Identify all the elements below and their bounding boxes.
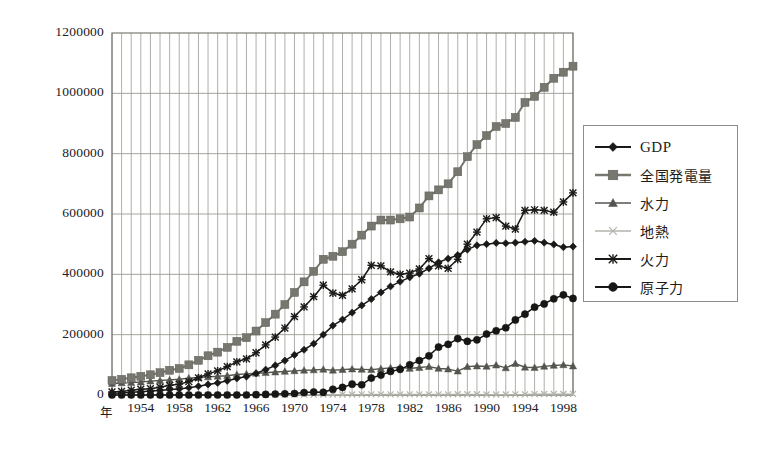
marker-square [531,92,539,100]
marker-square [300,278,308,286]
marker-star [540,206,548,214]
marker-circle [512,316,519,323]
marker-square [156,369,164,377]
marker-square [521,98,529,106]
marker-square [502,120,510,128]
marker-square [166,366,174,374]
marker-star [329,289,337,297]
marker-star [377,262,385,270]
marker-diamond [493,239,500,246]
marker-star [348,285,356,293]
x-axis-tick-label: 1998 [539,400,587,416]
marker-star [492,214,500,222]
legend-item-geothermal[interactable]: 地熱 [584,217,737,245]
marker-square [377,216,385,224]
marker-square [387,216,395,224]
marker-star [502,222,510,230]
marker-square [367,222,375,230]
y-axis-tick-label: 1200000 [20,24,104,40]
y-axis-tick-label: 200000 [20,326,104,342]
marker-square [454,168,462,176]
marker-circle [195,391,202,398]
marker-square [185,361,193,369]
legend-key-nuclear [593,280,633,294]
marker-circle [233,391,240,398]
marker-star [569,189,577,197]
y-axis-tick-label: 400000 [20,265,104,281]
marker-square [463,153,471,161]
marker-square [550,74,558,82]
marker-square [146,371,154,379]
legend-symbol-nuclear [593,280,633,294]
marker-circle [368,375,375,382]
marker-square [252,327,260,335]
marker-star [444,264,452,272]
legend-label-gdp: GDP [640,139,672,156]
legend-key-national-generation [593,168,633,182]
marker-square [118,375,126,383]
marker-square [108,377,116,385]
marker-square [290,288,298,296]
legend-label-nuclear: 原子力 [640,277,684,297]
marker-diamond [445,255,452,262]
legend-symbol-geothermal [593,224,633,238]
marker-diamond [550,241,557,248]
marker-square [348,240,356,248]
marker-circle [339,384,346,391]
marker-square [358,231,366,239]
marker-square [204,352,212,360]
marker-circle [435,343,442,350]
y-axis-tick-label: 0 [20,386,104,402]
marker-square [492,123,500,131]
marker-star [396,270,404,278]
marker-star [204,370,212,378]
x-axis-title: 年 [100,402,113,421]
legend-item-gdp[interactable]: GDP [584,133,737,161]
marker-circle [387,368,394,375]
marker-square [271,310,279,318]
marker-square [415,204,423,212]
marker-circle [445,341,452,348]
legend-item-thermal[interactable]: 火力 [584,245,737,273]
marker-square [281,301,289,309]
marker-circle [224,391,231,398]
marker-star [252,349,260,357]
marker-circle [473,336,480,343]
marker-square [319,255,327,263]
marker-circle [521,311,528,318]
marker-circle [569,295,576,302]
marker-star [425,255,433,263]
legend-symbol-national-generation [593,168,633,182]
chart-legend: GDP全国発電量水力地熱火力原子力 [583,125,738,302]
legend-label-geothermal: 地熱 [640,221,669,241]
y-axis-tick-label: 1000000 [20,84,104,100]
marker-star [339,292,347,300]
marker-circle [310,388,317,395]
marker-circle [550,295,557,302]
marker-square [444,180,452,188]
marker-square [559,68,567,76]
chart-figure: 120000010000008000006000004000002000000 … [0,0,779,453]
marker-diamond [291,351,298,358]
legend-item-nuclear[interactable]: 原子力 [584,273,737,301]
legend-key-gdp [593,140,633,154]
legend-item-national-generation[interactable]: 全国発電量 [584,161,737,189]
marker-circle [560,291,567,298]
marker-star [281,324,289,332]
legend-key-thermal [593,252,633,266]
marker-circle [483,330,490,337]
marker-square [127,374,135,382]
marker-circle [541,300,548,307]
marker-circle [358,381,365,388]
marker-diamond [531,237,538,244]
marker-circle [397,366,404,373]
marker-circle [531,304,538,311]
marker-circle [493,327,500,334]
marker-star [473,228,481,236]
marker-diamond [272,362,279,369]
marker-diamond [609,143,618,152]
legend-item-hydro[interactable]: 水力 [584,189,737,217]
marker-star [358,276,366,284]
marker-square [223,343,231,351]
marker-star [214,367,222,375]
